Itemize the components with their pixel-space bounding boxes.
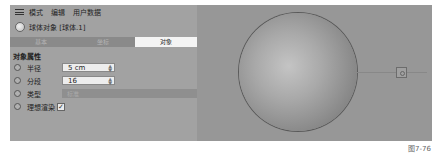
segments-label: 分段	[27, 76, 62, 86]
property-render-perfect: 理想渲染 ✓	[10, 101, 197, 112]
tab-bar: 基本 坐标 对象	[10, 37, 197, 47]
animate-radio-icon[interactable]	[14, 77, 21, 84]
3d-viewport[interactable]	[197, 5, 432, 141]
radius-input[interactable]: 5 cm ▲▼	[62, 63, 115, 72]
property-segments: 分段 16 ▲▼	[10, 75, 197, 86]
type-select[interactable]: 标准	[62, 89, 197, 98]
type-label: 类型	[27, 89, 62, 99]
radius-handle-icon[interactable]	[396, 67, 407, 78]
render-perfect-checkbox[interactable]: ✓	[57, 103, 65, 111]
tab-coord[interactable]: 坐标	[72, 37, 134, 47]
hamburger-menu-icon[interactable]	[15, 9, 24, 15]
figure-caption: 图7-76	[408, 143, 431, 153]
spinner-arrows-icon[interactable]: ▲▼	[108, 64, 112, 72]
sphere-object-icon	[15, 22, 25, 32]
segments-input[interactable]: 16 ▲▼	[62, 76, 115, 85]
sphere-object[interactable]	[239, 13, 357, 131]
spinner-arrows-icon[interactable]: ▲▼	[108, 77, 112, 85]
tab-basic[interactable]: 基本	[10, 37, 72, 47]
menu-edit[interactable]: 编辑	[51, 7, 65, 17]
object-title: 球体对象 [球体.1]	[29, 22, 85, 32]
section-title: 对象属性	[13, 51, 41, 61]
property-type: 类型 标准	[10, 88, 197, 99]
tab-object[interactable]: 对象	[135, 37, 197, 47]
menubar: 模式 编辑 用户数据	[10, 5, 197, 19]
attributes-panel: 模式 编辑 用户数据 球体对象 [球体.1] 基本 坐标 对象 对象属性 半径 …	[10, 5, 197, 141]
object-header: 球体对象 [球体.1]	[10, 20, 197, 34]
radius-handle-line	[357, 72, 427, 73]
property-radius: 半径 5 cm ▲▼	[10, 62, 197, 73]
menu-user-data[interactable]: 用户数据	[73, 7, 101, 17]
animate-radio-icon[interactable]	[14, 64, 21, 71]
animate-radio-icon[interactable]	[14, 90, 21, 97]
render-perfect-label: 理想渲染	[27, 102, 55, 112]
animate-radio-icon[interactable]	[14, 103, 21, 110]
attribute-manager-window: 模式 编辑 用户数据 球体对象 [球体.1] 基本 坐标 对象 对象属性 半径 …	[10, 5, 432, 141]
radius-label: 半径	[27, 63, 62, 73]
menu-mode[interactable]: 模式	[29, 7, 43, 17]
